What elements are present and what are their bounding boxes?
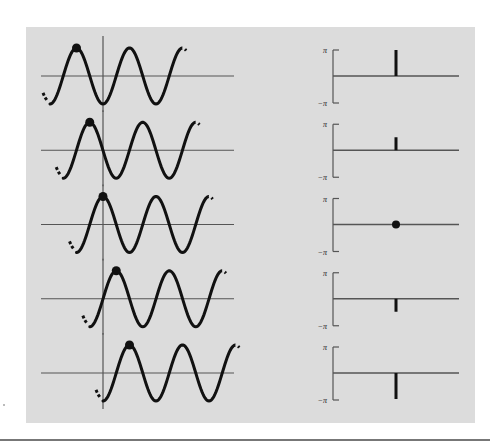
curve-continuation-left	[83, 316, 88, 324]
curve-continuation-right	[232, 345, 239, 348]
curve-continuation-right	[192, 122, 199, 125]
label-minus-pi: −π	[318, 99, 328, 108]
phase-zero-dot	[392, 221, 400, 229]
label-pi: π	[323, 195, 328, 204]
phase-marker-dot	[72, 44, 81, 53]
curve-continuation-left	[96, 390, 101, 398]
label-minus-pi: −π	[318, 173, 328, 182]
curve-continuation-right	[179, 48, 186, 51]
curve-continuation-left	[70, 241, 75, 249]
label-minus-pi: −π	[318, 396, 328, 405]
curve-continuation-left	[56, 167, 61, 175]
curve-continuation-right	[219, 271, 226, 274]
label-minus-pi: −π	[318, 248, 328, 257]
phase-diagram: π−ππ−ππ−ππ−ππ−π	[0, 0, 499, 444]
bottom-rule	[0, 439, 490, 441]
curve-continuation-right	[206, 197, 213, 200]
phase-marker-dot	[99, 192, 108, 201]
label-minus-pi: −π	[318, 322, 328, 331]
label-pi: π	[323, 46, 328, 55]
label-pi: π	[323, 343, 328, 352]
phase-marker-dot	[112, 266, 121, 275]
phase-marker-dot	[125, 341, 134, 350]
label-pi: π	[323, 269, 328, 278]
margin-mark	[3, 404, 5, 406]
label-pi: π	[323, 120, 328, 129]
curve-continuation-left	[43, 93, 48, 101]
phase-marker-dot	[85, 118, 94, 127]
